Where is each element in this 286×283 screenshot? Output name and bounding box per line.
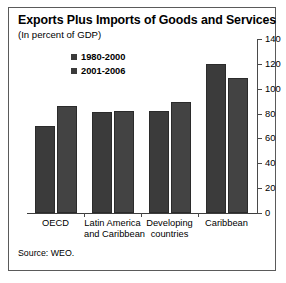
category-label-line: Developing — [141, 218, 198, 229]
plot-area — [27, 39, 255, 213]
category-label-line: countries — [141, 229, 198, 240]
bar — [206, 64, 226, 213]
y-axis-tick-label: 60 — [265, 133, 275, 142]
y-axis-tick-label: 140 — [265, 34, 281, 43]
bar — [114, 111, 134, 213]
category-label-line: and Caribbean — [84, 229, 141, 240]
source-note: Source: WEO. — [18, 248, 74, 258]
chart-title: Exports Plus Imports of Goods and Servic… — [18, 13, 276, 27]
y-axis-tick — [257, 39, 262, 40]
category-label-line: OECD — [27, 218, 84, 229]
x-axis-tick — [198, 213, 199, 217]
x-axis-category-label: Latin Americaand Caribbean — [84, 218, 141, 240]
y-axis-line — [257, 39, 258, 213]
bar-group — [27, 39, 84, 213]
y-axis-tick — [257, 114, 262, 115]
x-axis-tick — [84, 213, 85, 217]
y-axis-tick — [257, 89, 262, 90]
x-axis-category-label: Caribbean — [198, 218, 255, 229]
y-axis-tick — [257, 163, 262, 164]
bar — [171, 102, 191, 213]
y-axis-tick-label: 100 — [265, 84, 281, 93]
x-axis-tick — [141, 213, 142, 217]
y-axis-tick-label: 0 — [265, 208, 270, 217]
bar-group — [141, 39, 198, 213]
bar — [149, 111, 169, 213]
y-axis-tick — [257, 64, 262, 65]
bar — [57, 106, 77, 213]
y-axis-tick — [257, 138, 262, 139]
y-axis-tick-label: 80 — [265, 109, 275, 118]
x-axis-category-label: Developingcountries — [141, 218, 198, 240]
category-label-line: Caribbean — [198, 218, 255, 229]
category-label-line: Latin America — [84, 218, 141, 229]
x-axis-category-label: OECD — [27, 218, 84, 229]
bar — [92, 112, 112, 213]
x-axis-line — [27, 213, 257, 214]
chart-figure: Exports Plus Imports of Goods and Servic… — [8, 7, 276, 271]
y-axis-tick — [257, 188, 262, 189]
y-axis-tick — [257, 213, 262, 214]
y-axis-tick-label: 20 — [265, 183, 275, 192]
bar-group — [198, 39, 255, 213]
bar — [228, 78, 248, 213]
bar — [35, 126, 55, 213]
y-axis-tick-label: 120 — [265, 59, 281, 68]
bar-group — [84, 39, 141, 213]
y-axis-tick-label: 40 — [265, 158, 275, 167]
